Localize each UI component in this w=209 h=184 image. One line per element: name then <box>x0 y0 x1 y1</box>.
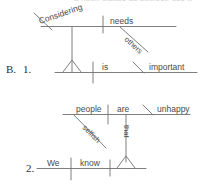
item-marker-2: 2. <box>26 162 35 174</box>
label-is: is <box>102 62 108 72</box>
label-needs: needs <box>110 16 133 26</box>
label-others: others <box>123 35 145 56</box>
label-know: know <box>80 158 101 168</box>
exercise-1: B. 1. Considering needs others <box>6 2 197 83</box>
label-we: We <box>47 158 60 168</box>
predicate-adjective-slant-1 <box>133 62 144 73</box>
item-marker-1: 1. <box>23 63 32 75</box>
main-clause-diagram-1: is important <box>55 60 197 83</box>
main-clause-diagram-2: We know <box>37 156 146 180</box>
worksheet-page: a noun clause as subject, use it B. 1. C… <box>0 0 209 184</box>
label-unhappy: unhappy <box>157 104 190 114</box>
label-important: important <box>149 62 185 72</box>
label-are: are <box>117 104 130 114</box>
subject-clause-diagram-1: Considering needs others <box>34 2 176 56</box>
predicate-adjective-slant-2 <box>143 105 153 115</box>
section-marker-b: B. <box>6 63 16 75</box>
label-selfish: selfish <box>81 123 103 145</box>
sentence-diagrams: B. 1. Considering needs others <box>0 0 209 184</box>
exercise-2: 2. people are unhappy selfish that <box>26 104 190 180</box>
label-people: people <box>76 104 102 114</box>
label-considering: Considering <box>37 2 83 26</box>
label-that: that <box>122 125 131 139</box>
